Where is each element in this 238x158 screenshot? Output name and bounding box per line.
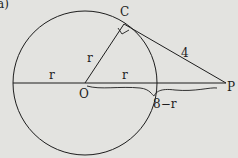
point-p-label: P [227,80,235,94]
radius-left-label: r [49,68,55,82]
radius-right-label: r [122,68,128,82]
geometry-diagram: a) C O P r r r 4 8−r [0,0,238,158]
brace [87,86,217,96]
point-o-label: O [79,87,89,101]
point-c-label: C [120,5,129,19]
part-label: a) [0,0,9,11]
outside-segment-label: 8−r [153,97,177,111]
right-angle-marker [118,28,129,34]
tangent-cp [124,24,226,83]
radius-oc-label: r [87,51,93,65]
tangent-length-label: 4 [181,46,189,60]
